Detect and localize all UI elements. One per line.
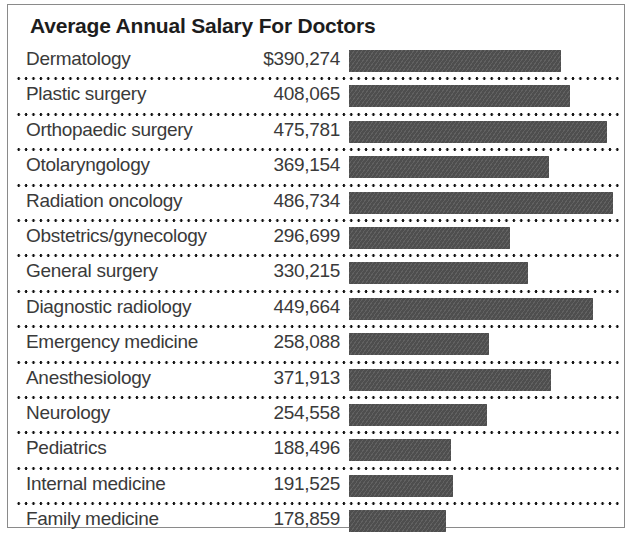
salary-bar (349, 192, 613, 214)
row-label-specialty: Internal medicine (26, 473, 166, 495)
salary-bar (349, 404, 487, 426)
chart-card: Average Annual Salary For Doctors Dermat… (7, 4, 625, 528)
row-value-salary: 486,734 (158, 190, 340, 212)
table-row: Family medicine178,859 (8, 505, 624, 540)
bar-track (349, 475, 614, 497)
bar-track (349, 404, 614, 426)
bar-track (349, 510, 614, 532)
table-row: Pediatrics188,496 (8, 434, 624, 469)
bar-track (349, 262, 614, 284)
salary-bar (349, 85, 570, 107)
row-value-salary: 254,558 (158, 402, 340, 424)
salary-bar (349, 50, 561, 72)
salary-bar (349, 369, 551, 391)
salary-bar (349, 475, 453, 497)
bar-track (349, 192, 614, 214)
row-label-specialty: Family medicine (26, 508, 159, 530)
row-value-salary: 408,065 (158, 83, 340, 105)
row-value-salary: 475,781 (158, 119, 340, 141)
table-row: Obstetrics/gynecology296,699 (8, 222, 624, 257)
bar-track (349, 333, 614, 355)
table-row: Internal medicine191,525 (8, 470, 624, 505)
table-row: General surgery330,215 (8, 257, 624, 292)
bar-track (349, 156, 614, 178)
salary-bar (349, 121, 607, 143)
row-value-salary: 296,699 (158, 225, 340, 247)
row-value-salary: 191,525 (158, 473, 340, 495)
table-row: Dermatology$390,274 (8, 45, 624, 80)
row-label-specialty: Otolaryngology (26, 154, 150, 176)
chart-rows: Dermatology$390,274Plastic surgery408,06… (8, 45, 624, 540)
table-row: Otolaryngology369,154 (8, 151, 624, 186)
row-label-specialty: Plastic surgery (26, 83, 146, 105)
salary-bar (349, 156, 549, 178)
row-label-specialty: Pediatrics (26, 437, 106, 459)
table-row: Radiation oncology486,734 (8, 187, 624, 222)
table-row: Orthopaedic surgery475,781 (8, 116, 624, 151)
salary-bar (349, 298, 593, 320)
bar-track (349, 439, 614, 461)
bar-track (349, 85, 614, 107)
row-value-salary: 449,664 (158, 296, 340, 318)
page-title: Average Annual Salary For Doctors (30, 14, 375, 38)
table-row: Plastic surgery408,065 (8, 80, 624, 115)
row-value-salary: 178,859 (158, 508, 340, 530)
table-row: Neurology254,558 (8, 399, 624, 434)
salary-bar (349, 333, 489, 355)
bar-track (349, 298, 614, 320)
row-label-specialty: Dermatology (26, 48, 130, 70)
bar-track (349, 121, 614, 143)
row-label-specialty: General surgery (26, 260, 158, 282)
bar-track (349, 227, 614, 249)
row-label-specialty: Anesthesiology (26, 367, 151, 389)
table-row: Anesthesiology371,913 (8, 364, 624, 399)
row-value-salary: 330,215 (158, 260, 340, 282)
row-label-specialty: Neurology (26, 402, 110, 424)
salary-bar (349, 262, 528, 284)
bar-track (349, 369, 614, 391)
table-row: Diagnostic radiology449,664 (8, 293, 624, 328)
salary-bar (349, 227, 510, 249)
table-row: Emergency medicine258,088 (8, 328, 624, 363)
bar-track (349, 50, 614, 72)
row-value-salary: 258,088 (158, 331, 340, 353)
row-value-salary: 188,496 (158, 437, 340, 459)
salary-bar (349, 439, 451, 461)
row-value-salary: 371,913 (158, 367, 340, 389)
row-value-salary: 369,154 (158, 154, 340, 176)
row-value-salary: $390,274 (158, 48, 340, 70)
salary-bar (349, 510, 446, 532)
